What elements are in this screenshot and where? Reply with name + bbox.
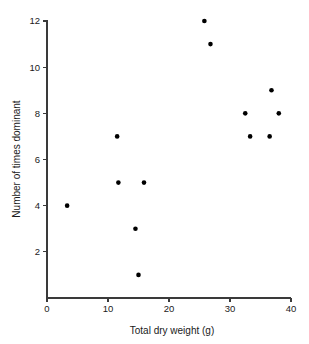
y-tick-label: 10	[29, 62, 40, 73]
data-point	[136, 273, 141, 278]
x-tick-label: 40	[286, 303, 297, 314]
x-axis-ticks: 010203040	[44, 298, 296, 314]
x-tick-label: 30	[225, 303, 236, 314]
y-axis-title: Number of times dominant	[11, 100, 22, 217]
data-point	[142, 180, 147, 185]
x-tick-label: 20	[164, 303, 175, 314]
data-points-layer	[65, 19, 281, 278]
scatter-plot-figure: 24681012 010203040 Total dry weight (g) …	[0, 0, 309, 344]
data-point	[243, 111, 248, 116]
data-point	[65, 203, 70, 208]
data-point	[115, 134, 120, 139]
y-tick-label: 12	[29, 15, 40, 26]
y-tick-label: 8	[35, 108, 40, 119]
x-tick-label: 10	[103, 303, 114, 314]
y-axis-ticks: 24681012	[29, 15, 47, 257]
y-axis: 24681012	[29, 15, 47, 298]
data-point	[133, 226, 138, 231]
y-tick-label: 6	[35, 154, 40, 165]
data-point	[208, 42, 213, 47]
data-point	[202, 19, 207, 24]
data-point	[116, 180, 121, 185]
scatter-plot-canvas: 24681012 010203040 Total dry weight (g) …	[0, 0, 309, 344]
data-point	[267, 134, 272, 139]
data-point	[248, 134, 253, 139]
y-tick-label: 4	[35, 200, 40, 211]
y-tick-label: 2	[35, 246, 40, 257]
data-point	[269, 88, 274, 93]
x-axis-title: Total dry weight (g)	[130, 325, 214, 336]
data-point	[277, 111, 282, 116]
x-axis: 010203040	[44, 298, 296, 314]
x-tick-label: 0	[44, 303, 49, 314]
